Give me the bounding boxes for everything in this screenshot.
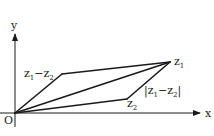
- origin-label: O: [4, 114, 13, 127]
- edge-origin-to-z2: [15, 99, 127, 113]
- x-axis-label: x: [205, 107, 212, 120]
- z1-minus-z2-label: z1−z2: [24, 67, 54, 82]
- modulus-label: |z1−z2|: [144, 84, 181, 99]
- y-axis-label: y: [10, 19, 18, 32]
- z2-label: z2: [127, 97, 137, 112]
- parallelogram-diagram: y x O z1 z2 z1−z2 |z1−z2|: [0, 0, 214, 136]
- z1-label: z1: [174, 55, 184, 70]
